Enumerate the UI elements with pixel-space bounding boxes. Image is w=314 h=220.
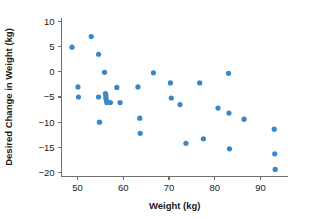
data-point (226, 111, 231, 116)
data-point (197, 80, 202, 85)
x-axis-ticks: 5060708090 (72, 177, 266, 193)
data-point (96, 52, 101, 57)
data-point (69, 45, 74, 50)
x-tick-label: 60 (118, 182, 129, 193)
y-tick-label: 0 (49, 66, 54, 77)
y-axis-ticks: 1050−5−10−15−20 (38, 16, 61, 178)
data-point (241, 117, 246, 122)
data-point (108, 100, 113, 105)
data-point (135, 84, 140, 89)
x-tick-label: 90 (255, 182, 266, 193)
y-tick-label: 10 (44, 16, 55, 27)
data-point (89, 34, 94, 39)
data-point (272, 127, 277, 132)
data-point (168, 80, 173, 85)
data-point (169, 95, 174, 100)
y-axis-title: Desired Change in Weight (kg) (3, 28, 14, 166)
y-tick-label: 5 (49, 41, 54, 52)
data-point (102, 70, 107, 75)
data-point (226, 71, 231, 76)
x-tick-label: 70 (164, 182, 175, 193)
data-point (96, 94, 101, 99)
x-tick-label: 50 (72, 182, 83, 193)
data-point (117, 100, 122, 105)
data-point (273, 167, 278, 172)
x-tick-label: 80 (209, 182, 220, 193)
scatter-chart-figure: 1050−5−10−15−20 5060708090 Weight (kg) D… (0, 0, 314, 220)
y-tick-label: −15 (38, 142, 54, 153)
y-tick-label: −20 (38, 167, 54, 178)
data-point (97, 120, 102, 125)
data-points-group (69, 34, 277, 172)
axes-group (62, 18, 289, 177)
data-point (227, 146, 232, 151)
data-point (183, 141, 188, 146)
data-point (114, 85, 119, 90)
data-point (215, 105, 220, 110)
data-point (201, 136, 206, 141)
data-point (75, 84, 80, 89)
data-point (151, 70, 156, 75)
plot-canvas: 1050−5−10−15−20 5060708090 Weight (kg) D… (0, 0, 314, 220)
y-tick-label: −5 (44, 91, 55, 102)
y-tick-label: −10 (38, 117, 54, 128)
data-point (272, 151, 277, 156)
x-axis-title: Weight (kg) (149, 200, 201, 211)
data-point (138, 131, 143, 136)
data-point (177, 102, 182, 107)
data-point (137, 116, 142, 121)
data-point (76, 94, 81, 99)
